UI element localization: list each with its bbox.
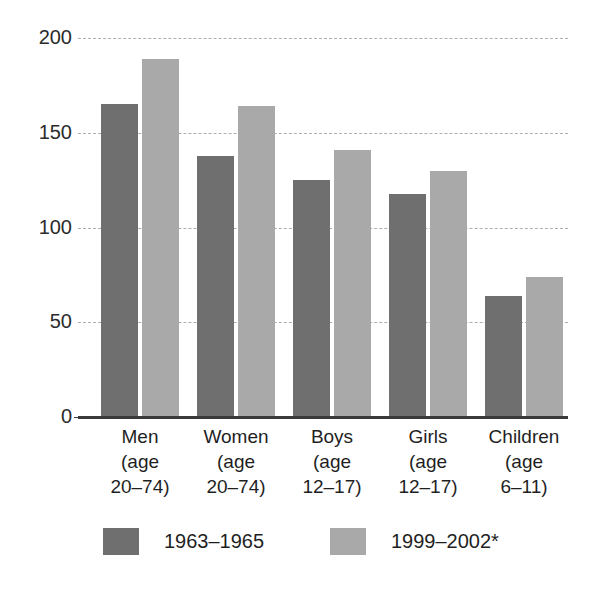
- legend-color-swatch: [103, 528, 139, 555]
- y-axis-tick-label: 0: [16, 406, 72, 426]
- bar: [238, 106, 275, 419]
- y-axis-tick-label: 200: [16, 27, 72, 47]
- bar: [485, 296, 522, 419]
- legend-color-swatch: [330, 528, 366, 555]
- bar: [389, 194, 426, 420]
- bar-chart: 050100150200 Men (age 20–74)Women (age 2…: [0, 0, 604, 604]
- y-axis-tick-label: 150: [16, 122, 72, 142]
- plot-area: [78, 30, 568, 418]
- legend-item: 1963–1965: [103, 528, 264, 555]
- bar: [101, 104, 138, 419]
- legend-item: 1999–2002*: [330, 528, 499, 555]
- legend-label: 1963–1965: [164, 528, 264, 555]
- gridline: [78, 38, 568, 39]
- bar: [142, 59, 179, 419]
- legend: 1963–19651999–2002*: [0, 528, 604, 568]
- bar: [334, 150, 371, 419]
- bar: [293, 180, 330, 419]
- bar: [526, 277, 563, 419]
- bar: [430, 171, 467, 419]
- y-axis-tick-label: 100: [16, 217, 72, 237]
- bar: [197, 156, 234, 419]
- y-axis-tick-label: 50: [16, 311, 72, 331]
- x-axis-category-label: Children (age 6–11): [464, 424, 584, 499]
- legend-label: 1999–2002*: [391, 528, 499, 555]
- x-axis-baseline: [78, 416, 568, 419]
